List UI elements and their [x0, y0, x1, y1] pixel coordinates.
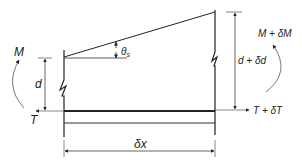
top-surface-line: [64, 12, 215, 57]
moment-arc-left: [13, 60, 24, 108]
moment-label-right: M + δM: [258, 28, 292, 39]
moment-label-left: M: [14, 45, 24, 59]
left-section-line: [60, 50, 66, 137]
depth-label-right: d + δd: [238, 55, 267, 66]
tension-label-left: T: [30, 113, 39, 127]
depth-label-left: d: [35, 77, 42, 91]
angle-label: θs: [121, 46, 130, 58]
moment-arc-right: [266, 45, 281, 92]
right-section-line: [212, 10, 217, 135]
length-label: δx: [134, 137, 148, 151]
beam-element-diagram: θs d M T d + δd M + δM T + δT δx: [0, 0, 302, 165]
tension-label-right: T + δT: [253, 105, 283, 116]
